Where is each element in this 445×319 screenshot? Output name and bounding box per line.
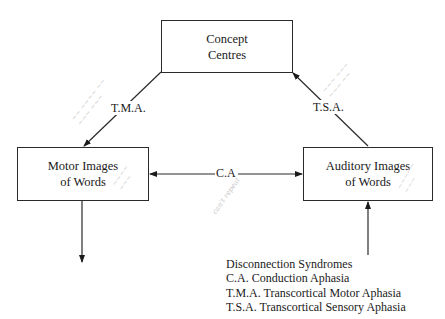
edge-label-tsa: T.S.A. [312,100,345,114]
edge-label-tma: T.M.A. [110,101,147,115]
node-label: Motor Images [48,158,118,174]
legend-title: Disconnection Syndromes [226,257,406,271]
node-label: Concept [206,31,248,47]
node-concept-centres: Concept Centres [161,20,293,73]
node-label: of Words [345,174,391,190]
legend-item: C.A. Conduction Aphasia [226,271,406,285]
legend-item: T.S.A. Transcortical Sensory Aphasia [226,300,406,314]
node-label: Auditory Images [326,158,410,174]
legend: Disconnection Syndromes C.A. Conduction … [226,257,406,314]
legend-item: T.M.A. Transcortical Motor Aphasia [226,286,406,300]
node-label: of Words [60,174,106,190]
node-label: Centres [208,47,246,63]
